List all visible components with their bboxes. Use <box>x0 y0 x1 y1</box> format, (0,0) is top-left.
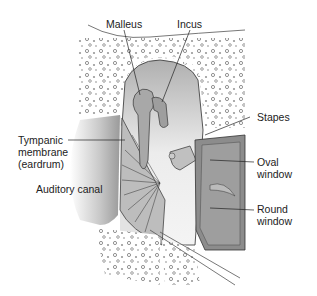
label-round-window: Round window <box>257 203 292 227</box>
temporal-bone-lower-right <box>162 240 200 285</box>
middle-ear-diagram: Malleus Incus Stapes Tympanic membrane (… <box>0 0 317 296</box>
label-auditory-canal: Auditory canal <box>36 183 103 195</box>
label-incus: Incus <box>177 18 202 30</box>
temporal-bone-lower-left <box>95 228 160 285</box>
label-stapes: Stapes <box>257 111 290 123</box>
auditory-canal-shade <box>70 115 120 225</box>
label-oval-window: Oval window <box>257 156 292 180</box>
label-malleus: Malleus <box>106 18 142 30</box>
label-tympanic-membrane: Tympanic membrane (eardrum) <box>18 134 68 170</box>
